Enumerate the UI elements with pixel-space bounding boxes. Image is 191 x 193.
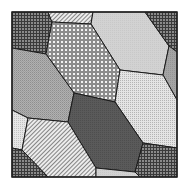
- cells-group: [12, 12, 177, 177]
- cell-bottom-right-crosshatch: [135, 143, 177, 177]
- voronoi-figure: [0, 0, 191, 193]
- cell-top-left-crosshatch: [12, 12, 52, 54]
